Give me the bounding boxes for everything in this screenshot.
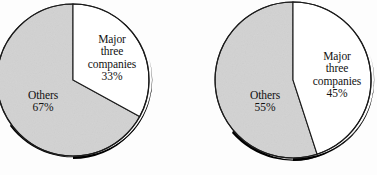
bottom-caption: [240, 164, 377, 175]
pie-charts-figure: [0, 0, 377, 175]
figure-canvas: Major three companies 33% Others 67% Maj…: [0, 0, 377, 175]
